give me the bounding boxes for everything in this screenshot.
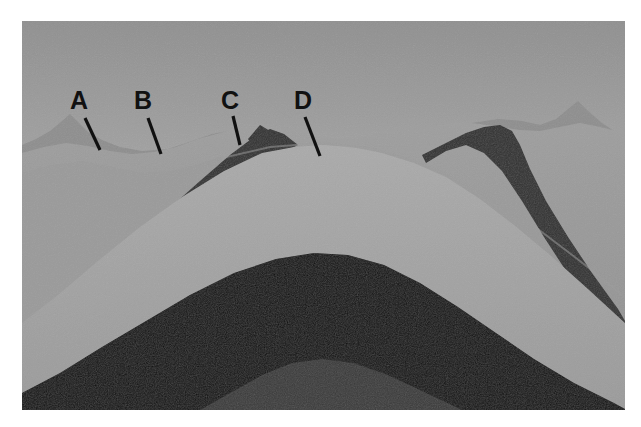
leader-lines-layer bbox=[0, 0, 641, 427]
figure-stage: A B C D bbox=[0, 0, 641, 427]
leader-line-d bbox=[305, 117, 320, 156]
leader-line-c bbox=[233, 116, 240, 145]
leader-line-a bbox=[85, 118, 100, 150]
leader-line-b bbox=[148, 118, 161, 154]
